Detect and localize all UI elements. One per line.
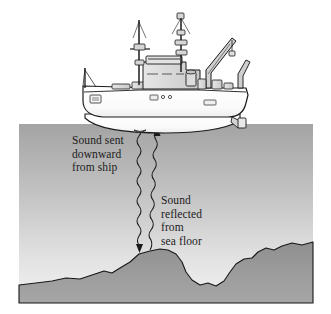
ship-a-frame [238, 60, 250, 88]
ship-funnel [186, 70, 196, 86]
ship-bow-marking [90, 95, 101, 103]
sonar-diagram: Sound sent downward from ship Sound refl… [0, 0, 331, 314]
research-ship [83, 13, 250, 133]
label-sound-reflected-from-sea-floor: Sound reflected from sea floor [161, 194, 202, 248]
diagram-canvas [0, 0, 331, 314]
label-sound-sent-downward: Sound sent downward from ship [72, 134, 124, 175]
